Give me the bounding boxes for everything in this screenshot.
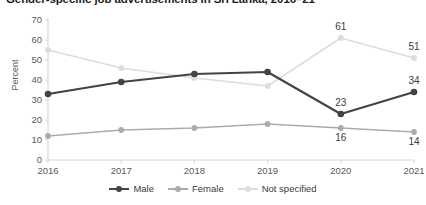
y-axis-tick-label: 20 bbox=[31, 114, 42, 125]
x-axis: 201620172018201920202021 bbox=[37, 160, 424, 176]
series-line bbox=[48, 38, 414, 86]
data-point bbox=[45, 47, 51, 53]
legend-item-label: Female bbox=[192, 183, 224, 194]
data-point bbox=[411, 89, 418, 96]
data-point-label: 14 bbox=[408, 136, 420, 147]
y-axis-tick-label: 70 bbox=[31, 14, 42, 25]
chart-container: Gender-specific job advertisements in Sr… bbox=[0, 0, 426, 205]
data-point-label: 16 bbox=[335, 132, 347, 143]
data-point bbox=[265, 121, 271, 127]
x-axis-tick-label: 2020 bbox=[330, 165, 351, 176]
x-axis-tick-label: 2016 bbox=[37, 165, 58, 176]
legend-item-male[interactable]: Male bbox=[109, 183, 154, 194]
data-point bbox=[411, 129, 417, 135]
y-axis-tick-label: 30 bbox=[31, 94, 42, 105]
data-point bbox=[118, 65, 124, 71]
series-not-specified bbox=[45, 35, 417, 89]
chart-legend: MaleFemaleNot specified bbox=[0, 183, 426, 194]
legend-item-label: Male bbox=[133, 183, 154, 194]
data-point-label: 23 bbox=[335, 97, 347, 108]
x-axis-tick-label: 2018 bbox=[184, 165, 205, 176]
legend-item-female[interactable]: Female bbox=[168, 183, 224, 194]
data-point bbox=[338, 35, 344, 41]
data-point bbox=[338, 125, 344, 131]
x-axis-tick-label: 2017 bbox=[111, 165, 132, 176]
data-point bbox=[411, 55, 417, 61]
y-axis-tick-label: 10 bbox=[31, 134, 42, 145]
series-female bbox=[45, 121, 417, 139]
data-point bbox=[338, 111, 345, 118]
y-axis-tick-label: 0 bbox=[37, 154, 42, 165]
series-line bbox=[48, 124, 414, 136]
legend-item-not-specified[interactable]: Not specified bbox=[238, 183, 317, 194]
data-series-layer bbox=[45, 35, 418, 139]
data-point bbox=[191, 71, 198, 78]
data-point-label: 34 bbox=[408, 75, 420, 86]
data-point bbox=[265, 83, 271, 89]
y-axis-tick-label: 60 bbox=[31, 34, 42, 45]
data-point bbox=[118, 127, 124, 133]
data-point bbox=[192, 125, 198, 131]
y-axis: 010203040506070 bbox=[31, 14, 48, 165]
x-axis-tick-label: 2019 bbox=[257, 165, 278, 176]
data-point bbox=[118, 79, 125, 86]
data-point bbox=[45, 91, 52, 98]
chart-plot-area: 010203040506070 201620172018201920202021… bbox=[0, 0, 426, 205]
data-point-label: 61 bbox=[335, 21, 347, 32]
legend-swatch bbox=[168, 184, 188, 193]
data-point-label: 51 bbox=[408, 41, 420, 52]
y-axis-tick-label: 50 bbox=[31, 54, 42, 65]
legend-swatch bbox=[238, 184, 258, 193]
series-male bbox=[45, 69, 418, 118]
y-axis-tick-label: 40 bbox=[31, 74, 42, 85]
legend-item-label: Not specified bbox=[262, 183, 317, 194]
x-axis-tick-label: 2021 bbox=[403, 165, 424, 176]
data-point bbox=[45, 133, 51, 139]
data-point bbox=[264, 69, 271, 76]
series-line bbox=[48, 72, 414, 114]
legend-swatch bbox=[109, 184, 129, 193]
